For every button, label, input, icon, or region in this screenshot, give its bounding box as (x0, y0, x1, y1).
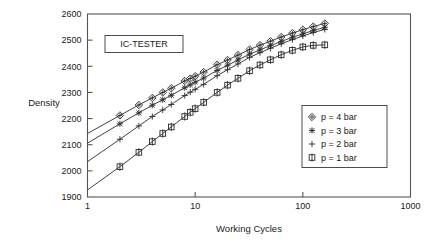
data-point (168, 92, 174, 98)
data-point (214, 88, 220, 96)
data-point (168, 85, 175, 92)
x-tick-label-1: 1 (85, 201, 90, 211)
y-tick-label-2300: 2300 (61, 88, 81, 98)
y-tick-label-2600: 2600 (61, 9, 81, 19)
data-point (182, 112, 188, 120)
chart-figure: 1900200021002200230024002500260011010010… (0, 0, 426, 244)
y-tick-label-1900: 1900 (61, 192, 81, 202)
data-point (135, 101, 142, 108)
y-tick-label-2400: 2400 (61, 62, 81, 72)
y-tick-label-2500: 2500 (61, 35, 81, 45)
data-point (201, 81, 207, 87)
legend-label: p = 2 bar (321, 139, 357, 149)
data-point (136, 148, 142, 156)
data-point (187, 89, 193, 95)
data-point (214, 73, 220, 79)
data-point (257, 61, 263, 69)
x-tick-label-10: 10 (190, 201, 200, 211)
data-point (168, 101, 174, 107)
annotation-layer: IC-TESTER (105, 36, 183, 53)
data-point (168, 123, 174, 131)
legend-label: p = 1 bar (321, 153, 357, 163)
asterisk-marker (309, 127, 315, 133)
data-point (182, 85, 188, 91)
data-point (117, 163, 123, 171)
data-point (201, 75, 207, 81)
data-point (201, 98, 207, 106)
data-point (225, 81, 231, 89)
x-tick-label-100: 100 (295, 201, 310, 211)
chart-legend: p = 4 barp = 3 barp = 2 barp = 1 bar (302, 106, 387, 168)
data-point (192, 79, 198, 85)
data-point (117, 121, 123, 127)
x-axis-title: Working Cycles (216, 223, 282, 234)
annotation-label: IC-TESTER (120, 39, 168, 49)
legend-label: p = 3 bar (321, 126, 357, 136)
data-point (136, 110, 142, 116)
data-point (150, 137, 156, 145)
data-point (160, 107, 166, 113)
data-point (149, 94, 156, 101)
data-point (278, 51, 284, 59)
data-point (192, 86, 198, 92)
data-point (191, 73, 198, 80)
x-tick-label-1000: 1000 (400, 201, 420, 211)
data-point (268, 56, 274, 64)
data-point (136, 123, 142, 129)
data-point (200, 68, 207, 75)
data-point (116, 112, 123, 119)
data-point (192, 105, 198, 113)
data-point (160, 129, 166, 137)
data-point (213, 61, 220, 68)
data-point (149, 102, 155, 108)
data-point (149, 113, 155, 119)
data-point (235, 74, 241, 82)
chart-plot: 1900200021002200230024002500260011010010… (0, 0, 426, 244)
data-point (159, 89, 166, 96)
y-tick-label-2000: 2000 (61, 166, 81, 176)
y-axis-title: Density (28, 97, 60, 108)
data-point (290, 46, 296, 54)
data-point (117, 136, 123, 142)
y-tick-label-2100: 2100 (61, 140, 81, 150)
y-tick-label-2200: 2200 (61, 114, 81, 124)
legend-label: p = 4 bar (321, 112, 357, 122)
data-point (160, 97, 166, 103)
data-point (182, 92, 188, 98)
data-point (247, 67, 253, 75)
